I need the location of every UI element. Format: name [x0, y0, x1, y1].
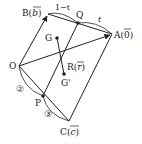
label-B: B(b): [22, 8, 41, 18]
point-Gprime-dot: [62, 72, 66, 76]
label-P: P: [35, 98, 41, 108]
label-ratio-OP: ②: [16, 84, 24, 94]
label-G: G: [45, 33, 52, 43]
label-ratio-PC: ③: [44, 109, 52, 119]
label-C: C(c): [60, 127, 79, 137]
segment-GGprime: [57, 38, 64, 74]
vector-OB: [19, 16, 47, 66]
label-O: O: [9, 61, 16, 71]
point-G-dot: [55, 36, 59, 40]
label-Gprime: G': [61, 78, 71, 88]
label-R: R(r): [67, 62, 85, 72]
label-ratio-BQ: 1−t: [55, 3, 71, 12]
point-Q-dot: [76, 21, 80, 25]
point-P-dot: [41, 94, 45, 98]
label-Q: Q: [76, 10, 83, 20]
vector-diagram: B(b) 1−t Q t A(0) G R(r) O G' ② P ③ C(c): [0, 0, 142, 144]
label-A: A(0): [113, 30, 133, 40]
label-ratio-QA: t: [98, 15, 102, 24]
